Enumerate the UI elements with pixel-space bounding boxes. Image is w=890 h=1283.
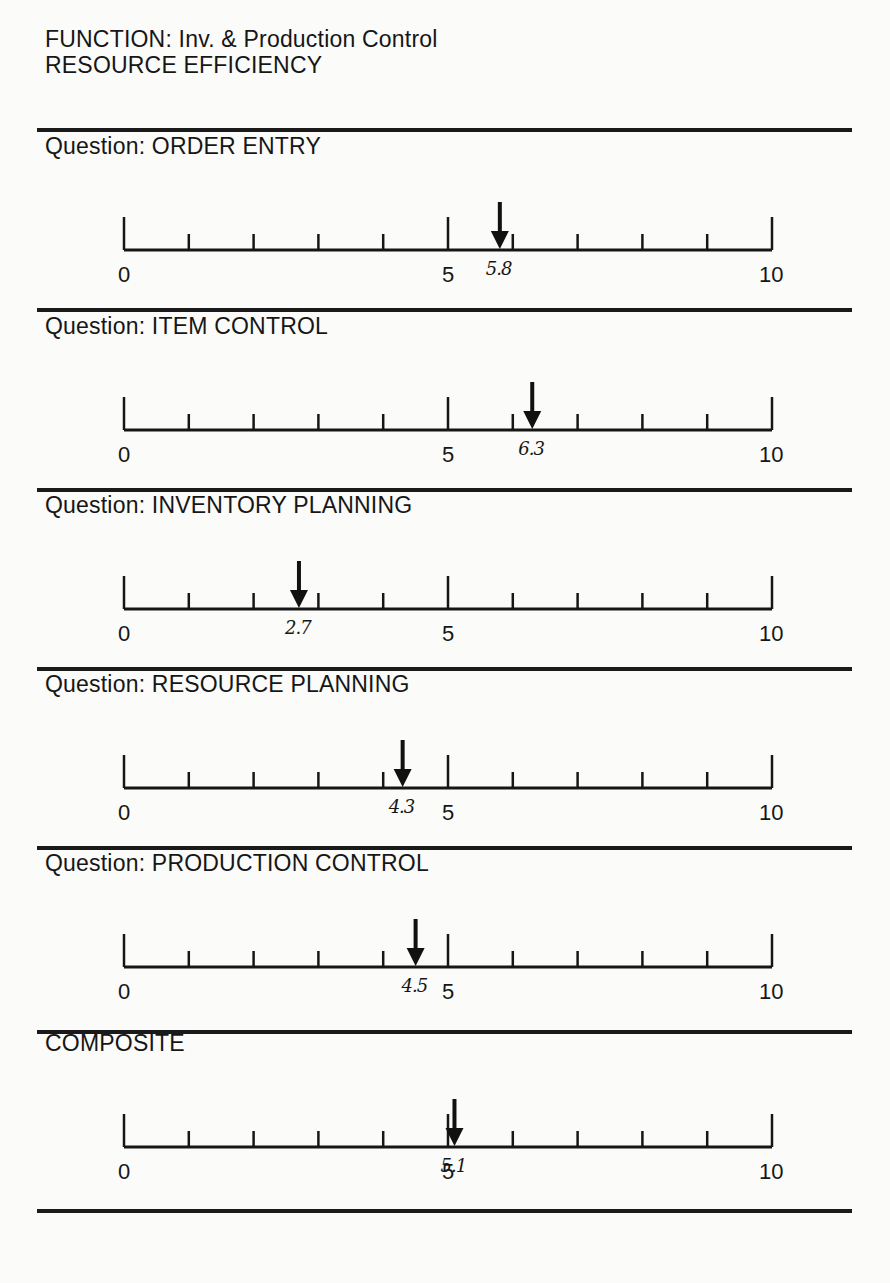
divider: [37, 308, 852, 312]
scale-section: Question: ORDER ENTRY05105.8: [0, 133, 890, 313]
tick-label-0: 0: [118, 1161, 130, 1183]
down-arrow-icon: [407, 919, 425, 966]
down-arrow-icon: [523, 382, 541, 429]
tick-label-10: 10: [759, 623, 783, 645]
tick-label-10: 10: [759, 444, 783, 466]
value-label: 4.3: [389, 798, 415, 816]
tick-label-5: 5: [442, 623, 454, 645]
value-label: 2.7: [285, 619, 311, 637]
page-header: FUNCTION: Inv. & Production Control RESO…: [45, 26, 438, 78]
value-label: 6.3: [518, 440, 544, 458]
scale-section: Question: RESOURCE PLANNING05104.3: [0, 671, 890, 851]
tick-label-0: 0: [118, 802, 130, 824]
tick-label-0: 0: [118, 444, 130, 466]
tick-label-10: 10: [759, 1161, 783, 1183]
down-arrow-icon: [290, 561, 308, 608]
tick-label-5: 5: [442, 981, 454, 1003]
tick-label-5: 5: [442, 802, 454, 824]
tick-label-0: 0: [118, 981, 130, 1003]
category-title: RESOURCE EFFICIENCY: [45, 52, 438, 78]
divider: [37, 1209, 852, 1213]
tick-label-0: 0: [118, 264, 130, 286]
tick-label-10: 10: [759, 981, 783, 1003]
scale-section: Question: INVENTORY PLANNING05102.7: [0, 492, 890, 672]
tick-label-10: 10: [759, 802, 783, 824]
scale-section: COMPOSITE05105.1: [0, 1030, 890, 1210]
down-arrow-icon: [394, 740, 412, 787]
value-label: 4.5: [402, 977, 428, 995]
tick-label-5: 5: [442, 264, 454, 286]
value-label: 5.8: [486, 260, 512, 278]
scale-section: Question: ITEM CONTROL05106.3: [0, 313, 890, 493]
scale-section: Question: PRODUCTION CONTROL05104.5: [0, 850, 890, 1030]
divider: [37, 128, 852, 132]
tick-label-0: 0: [118, 623, 130, 645]
value-label: 5.1: [440, 1157, 466, 1175]
down-arrow-icon: [491, 202, 509, 249]
tick-label-5: 5: [442, 444, 454, 466]
function-title: FUNCTION: Inv. & Production Control: [45, 26, 438, 52]
tick-label-10: 10: [759, 264, 783, 286]
